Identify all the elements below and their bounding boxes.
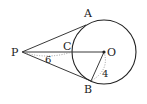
label-c: C xyxy=(63,40,71,53)
center-point-o xyxy=(102,50,105,53)
tangent-line-pa xyxy=(22,25,86,52)
measure-ob: 4 xyxy=(102,68,108,79)
label-b: B xyxy=(84,83,92,96)
tangent-line-pb xyxy=(22,52,91,81)
tangent-diagram: A P C O B 6 4 xyxy=(0,0,147,104)
label-p: P xyxy=(11,46,19,59)
label-o: O xyxy=(107,46,116,59)
measure-pc: 6 xyxy=(45,54,51,65)
label-a: A xyxy=(83,7,93,20)
